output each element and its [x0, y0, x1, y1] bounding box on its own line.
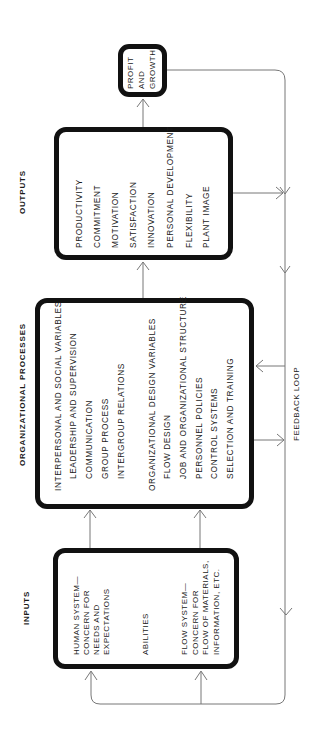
process-group-header: INTERPERSONAL AND SOCIAL VARIABLES — [53, 301, 63, 491]
profit-line: PROFIT — [126, 57, 136, 89]
feedback-loop-label: FEEDBACK LOOP — [292, 367, 302, 441]
process-item: GROUP PROCESS — [100, 398, 110, 479]
process-item: COMMUNICATION — [84, 400, 94, 479]
input-item: ABILITIES — [141, 613, 151, 655]
and-line: AND — [137, 71, 147, 89]
inputs-heading: INPUTS — [22, 591, 32, 625]
output-item: MOTIVATION — [110, 192, 120, 248]
process-item: PERSONNEL POLICIES — [194, 377, 204, 479]
output-item: PERSONAL DEVELOPMENT — [165, 126, 175, 248]
input-item: FLOW SYSTEM— — [180, 583, 190, 655]
process-item: SELECTION AND TRAINING — [225, 358, 235, 479]
input-item: NEEDS AND — [92, 604, 102, 655]
output-item: PLANT IMAGE — [201, 186, 211, 248]
growth-line: GROWTH — [148, 50, 158, 89]
outputs-heading: OUTPUTS — [18, 170, 28, 214]
input-item: CONCERN FOR — [191, 590, 201, 655]
process-item: CONTROL SYSTEMS — [209, 388, 219, 479]
feedback-down-arrow-3 — [280, 608, 292, 615]
process-item: FLOW DESIGN — [162, 414, 172, 479]
process-item: LEADERSHIP AND SUPERVISION — [68, 333, 78, 479]
output-item: PRODUCTIVITY — [74, 179, 84, 248]
input-item: INFORMATION, ETC. — [212, 568, 222, 655]
process-item: JOB AND ORGANIZATIONAL STRUCTURE — [178, 296, 188, 479]
output-item: FLEXIBILITY — [184, 193, 194, 248]
input-item: EXPECTATIONS — [102, 588, 112, 655]
system-diagram: OUTPUTS ORGANIZATIONAL PROCESSES INPUTS … — [0, 0, 319, 729]
processes-heading: ORGANIZATIONAL PROCESSES — [18, 323, 28, 466]
output-item: COMMITMENT — [92, 185, 102, 248]
input-item: HUMAN SYSTEM— — [72, 576, 82, 655]
input-item: CONCERN FOR — [82, 590, 92, 655]
process-group-header: ORGANIZATIONAL DESIGN VARIABLES — [147, 318, 157, 491]
process-item: INTERGROUP RELATIONS — [116, 363, 126, 479]
output-item: SATISFACTION — [128, 181, 138, 248]
output-item: INNOVATION — [146, 192, 156, 248]
input-item: FLOW OF MATERIALS, — [201, 560, 211, 655]
